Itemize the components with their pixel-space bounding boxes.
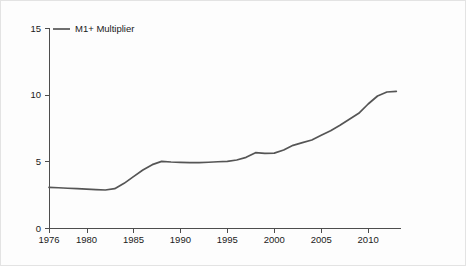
chart-legend: M1+ Multiplier (53, 23, 134, 34)
x-tick-label: 2000 (264, 234, 285, 245)
x-tick-label: 1976 (38, 234, 59, 245)
x-tick-label: 1980 (76, 234, 97, 245)
x-tick-label: 1990 (170, 234, 191, 245)
y-tick-label: 5 (36, 156, 41, 167)
line-chart: 051015 19761980198519901995200020052010 … (1, 1, 466, 266)
series-line-m1-multiplier (49, 91, 396, 190)
y-axis: 051015 (30, 23, 49, 234)
y-tick-label: 10 (30, 89, 41, 100)
x-tick-label: 2010 (358, 234, 379, 245)
x-tick-label: 1995 (217, 234, 238, 245)
series-lines (49, 91, 396, 190)
y-tick-label: 0 (36, 223, 41, 234)
legend-label: M1+ Multiplier (75, 23, 134, 34)
x-tick-label: 1985 (123, 234, 144, 245)
x-axis: 19761980198519901995200020052010 (38, 229, 401, 246)
chart-figure: 051015 19761980198519901995200020052010 … (0, 0, 466, 266)
x-tick-label: 2005 (311, 234, 332, 245)
y-tick-label: 15 (30, 23, 41, 34)
